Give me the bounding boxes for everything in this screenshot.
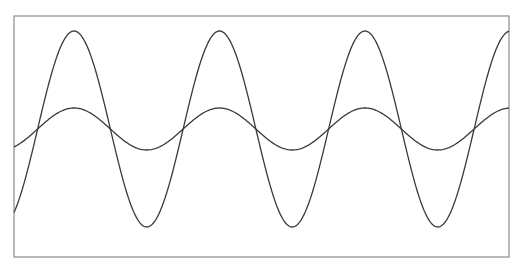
large-sine-wave-line [14, 31, 509, 227]
small-sine-wave-line [14, 108, 509, 150]
plot-frame [14, 16, 509, 257]
sine-wave-chart [0, 0, 521, 271]
